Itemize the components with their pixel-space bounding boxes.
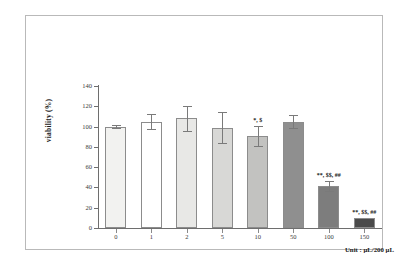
x-tick-label: 1	[136, 233, 166, 240]
error-bar-cap	[147, 129, 156, 130]
y-tick-label: 80	[62, 143, 92, 150]
x-tick-label: 100	[314, 233, 344, 240]
y-tick-label-wrap: 60	[58, 163, 92, 170]
bar	[105, 127, 126, 228]
unit-note: Unit : μL/200 μL	[294, 246, 394, 253]
y-tick-mark	[94, 147, 99, 148]
error-bar-line	[329, 181, 330, 191]
error-bar-cap	[254, 126, 263, 127]
y-tick-label: 120	[62, 102, 92, 109]
error-bar-cap	[218, 143, 227, 144]
y-tick-label: 20	[62, 204, 92, 211]
bar	[318, 186, 339, 228]
y-tick-mark	[94, 167, 99, 168]
bar	[354, 218, 375, 228]
y-tick-label-wrap: 100	[58, 123, 92, 130]
y-axis-label: viability (%)	[44, 81, 53, 161]
x-tick-label: 2	[172, 233, 202, 240]
y-tick-label-wrap: 80	[58, 143, 92, 150]
y-tick-label: 0	[62, 224, 92, 231]
significance-annotation: *, $	[228, 117, 288, 123]
error-bar-line	[187, 106, 188, 130]
figure-canvas: viability (%) 020406080100120140 0125105…	[0, 0, 403, 267]
error-bar-cap	[112, 128, 121, 129]
x-tick-label: 5	[207, 233, 237, 240]
y-tick-mark	[94, 208, 99, 209]
y-tick-mark	[94, 187, 99, 188]
y-tick-label: 60	[62, 163, 92, 170]
error-bar-cap	[112, 125, 121, 126]
error-bar-cap	[289, 128, 298, 129]
error-bar-line	[222, 112, 223, 142]
error-bar-cap	[325, 191, 334, 192]
error-bar-cap	[147, 114, 156, 115]
error-bar-line	[293, 115, 294, 127]
x-tick-label: 10	[243, 233, 273, 240]
error-bar-cap	[183, 131, 192, 132]
error-bar-cap	[289, 115, 298, 116]
y-tick-mark	[94, 86, 99, 87]
x-tick-label: 50	[278, 233, 308, 240]
error-bar-cap	[218, 112, 227, 113]
x-axis-line	[98, 228, 382, 229]
error-bar-cap	[254, 146, 263, 147]
y-tick-label-wrap: 20	[58, 204, 92, 211]
error-bar-cap	[183, 106, 192, 107]
significance-annotation: **, $$, ##	[299, 172, 359, 178]
y-tick-mark	[94, 228, 99, 229]
y-tick-label-wrap: 40	[58, 183, 92, 190]
bar	[247, 136, 268, 228]
bar	[141, 122, 162, 229]
y-tick-label-wrap: 140	[58, 82, 92, 89]
y-tick-label-wrap: 120	[58, 102, 92, 109]
x-tick-label: 0	[101, 233, 131, 240]
y-tick-label: 100	[62, 123, 92, 130]
y-tick-mark	[94, 106, 99, 107]
y-tick-label-wrap: 0	[58, 224, 92, 231]
y-tick-mark	[94, 127, 99, 128]
error-bar-line	[151, 114, 152, 128]
y-tick-label: 140	[62, 82, 92, 89]
error-bar-cap	[325, 181, 334, 182]
figure-frame: viability (%) 020406080100120140 0125105…	[25, 15, 383, 250]
x-tick-label: 150	[349, 233, 379, 240]
y-tick-label: 40	[62, 183, 92, 190]
bar	[176, 118, 197, 228]
significance-annotation: **, $$, ##	[334, 209, 394, 215]
error-bar-line	[258, 126, 259, 146]
